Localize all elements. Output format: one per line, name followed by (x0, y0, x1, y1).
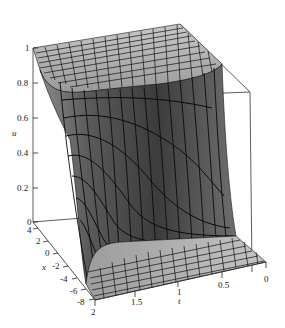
u-tick-0.8: 0.8 (17, 78, 29, 88)
u-axis-label: u (12, 128, 17, 138)
u-tick-0.4: 0.4 (17, 148, 29, 158)
u-tick-0.6: 0.6 (17, 113, 29, 123)
t-tick-2: 2 (91, 307, 96, 317)
x-tick-0: 0 (45, 248, 50, 258)
u-axis (33, 48, 38, 222)
x-tick-2: 2 (36, 236, 41, 246)
surface-plot: 1 0.8 0.6 0.4 0.2 0 u 4 2 0 -2 -4 -6 -8 … (0, 0, 285, 328)
t-tick-0.5: 0.5 (218, 280, 230, 290)
t-tick-0: 0 (264, 274, 269, 284)
x-tick-4: 4 (27, 225, 32, 235)
u-tick-1: 1 (25, 43, 30, 53)
u-tick-0.2: 0.2 (17, 183, 28, 193)
x-tick-neg4: -4 (60, 274, 68, 284)
x-tick-neg6: -6 (70, 286, 78, 296)
t-tick-1.5: 1.5 (131, 297, 143, 307)
t-axis-label: t (178, 296, 181, 306)
x-tick-neg2: -2 (52, 261, 60, 271)
x-axis-label: x (41, 262, 46, 272)
x-tick-neg8: -8 (77, 297, 85, 307)
